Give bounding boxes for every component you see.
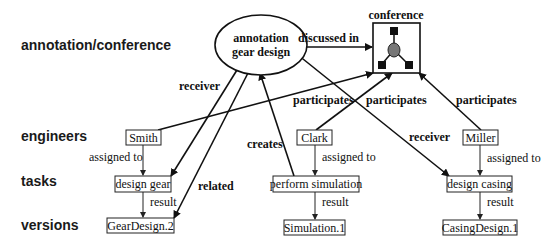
annotation-node[interactable]: annotation gear design	[215, 15, 307, 75]
version-node-casingdesign-1[interactable]: CasingDesign.1	[442, 220, 518, 235]
edge-creates	[260, 73, 294, 176]
engineer-node-smith[interactable]: Smith	[126, 130, 161, 145]
engineer-name: Miller	[466, 131, 496, 145]
diagram-canvas: annotation/conference engineers tasks ve…	[0, 0, 553, 248]
task-name: design gear	[116, 177, 171, 191]
version-name: Simulation.1	[284, 221, 346, 235]
edge-related	[174, 73, 248, 218]
edge-label-receiver-left: receiver	[179, 79, 221, 93]
task-node-design-casing[interactable]: design casing	[447, 176, 512, 192]
task-node-design-gear[interactable]: design gear	[115, 176, 171, 192]
edge-label-assigned-to-2: assigned to	[322, 150, 376, 164]
annotation-node-line2: gear design	[232, 45, 290, 59]
edge-label-creates: creates	[247, 137, 283, 151]
version-name: GearDesign.2	[107, 219, 173, 233]
edge-label-participates-1: participates	[293, 93, 354, 107]
conference-label: conference	[368, 8, 424, 22]
edge-label-assigned-to-1: assigned to	[89, 150, 143, 164]
edge-label-result-3: result	[487, 195, 514, 209]
task-name: design casing	[447, 177, 512, 191]
engineer-node-miller[interactable]: Miller	[463, 130, 498, 145]
edge-label-assigned-to-3: assigned to	[487, 151, 541, 165]
engineer-name: Smith	[129, 131, 158, 145]
row-label-annotation: annotation/conference	[21, 37, 171, 53]
row-label-versions: versions	[21, 217, 79, 233]
task-node-perform-simulation[interactable]: perform simulation	[270, 176, 362, 192]
row-label-engineers: engineers	[21, 128, 87, 144]
edge-label-discussed-in: discussed in	[298, 31, 359, 45]
version-node-geardesign-2[interactable]: GearDesign.2	[107, 218, 174, 233]
task-name: perform simulation	[270, 177, 362, 191]
edge-label-result-1: result	[150, 195, 177, 209]
row-label-tasks: tasks	[21, 173, 57, 189]
engineer-node-clark[interactable]: Clark	[297, 130, 332, 145]
edge-label-result-2: result	[322, 195, 349, 209]
conference-node[interactable]: conference	[368, 8, 424, 73]
version-name: CasingDesign.1	[442, 221, 518, 235]
edge-label-participates-2: participates	[366, 93, 427, 107]
edge-label-participates-3: participates	[456, 93, 517, 107]
edge-label-related: related	[198, 179, 234, 193]
annotation-node-line1: annotation	[233, 31, 289, 45]
version-node-simulation-1[interactable]: Simulation.1	[284, 220, 346, 235]
engineer-name: Clark	[301, 131, 328, 145]
edge-label-receiver-right: receiver	[409, 130, 451, 144]
